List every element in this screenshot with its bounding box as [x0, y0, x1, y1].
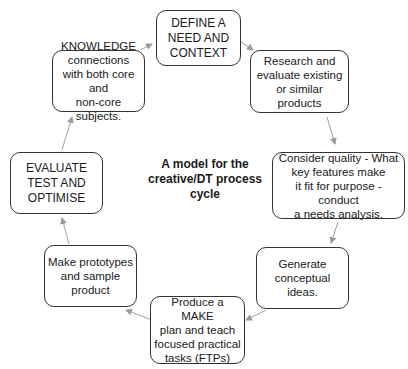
node-research: Research and evaluate existing or simila…: [250, 50, 349, 113]
node-generate-ideas: Generate conceptual ideas.: [256, 247, 349, 309]
node-define-need: DEFINE A NEED AND CONTEXT: [156, 10, 241, 66]
arrow-prototypes-to-evaluate: [62, 218, 69, 244]
arrow-quality-to-generate: [331, 222, 338, 243]
node-knowledge: KNOWLEDGE connections with both core and…: [52, 50, 145, 112]
diagram-title: A model for the creative/DT process cycl…: [138, 157, 272, 202]
arrow-research-to-quality: [327, 117, 335, 144]
arrow-define-to-research: [241, 42, 253, 50]
node-consider-quality: Consider quality - What key features mak…: [272, 152, 405, 219]
arrow-makeplan-to-prototypes: [126, 310, 152, 320]
node-evaluate: EVALUATE TEST AND OPTIMISE: [10, 152, 103, 214]
arrow-generate-to-makeplan: [246, 310, 266, 320]
arrow-knowledge-to-define: [140, 44, 152, 50]
node-make-plan: Produce a MAKE plan and teach focused pr…: [150, 296, 245, 364]
node-prototypes: Make prototypes and sample product: [44, 245, 137, 307]
